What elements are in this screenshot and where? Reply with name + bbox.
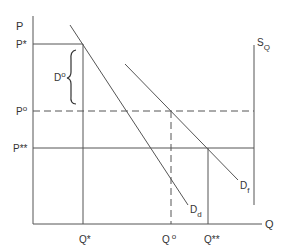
quota-supply-label: SQ — [257, 37, 270, 52]
p-zero-superscript: o — [23, 104, 28, 113]
domestic-demand-label: Dd — [190, 204, 202, 219]
q-zero-base: Q — [162, 234, 170, 245]
q-zero-label: Qo — [162, 232, 177, 245]
p-star-label: P* — [16, 39, 27, 50]
y-axis-label: P — [16, 20, 23, 32]
p-zero-label: Po — [16, 104, 28, 117]
sq-subscript: Q — [264, 43, 270, 52]
foreign-demand-label: Df — [240, 180, 250, 195]
economics-diagram: P Q P* Po P** Q* Qo Q** Dd Df SQ Do — [0, 0, 286, 249]
q-zero-superscript: o — [172, 232, 177, 241]
dd-base: D — [190, 204, 197, 215]
p-double-star-label: P** — [13, 143, 28, 154]
q-double-star-label: Q** — [204, 234, 220, 245]
foreign-demand-curve — [125, 64, 238, 180]
brace-base: D — [54, 72, 61, 83]
dd-subscript: d — [197, 210, 201, 219]
q-star-label: Q* — [79, 234, 91, 245]
brace-shape — [67, 50, 76, 104]
x-axis-label: Q — [265, 218, 274, 230]
domestic-demand-curve — [70, 25, 188, 205]
brace-label: Do — [54, 70, 66, 83]
df-subscript: f — [247, 186, 250, 195]
brace-superscript: o — [61, 70, 66, 79]
df-base: D — [240, 180, 247, 191]
